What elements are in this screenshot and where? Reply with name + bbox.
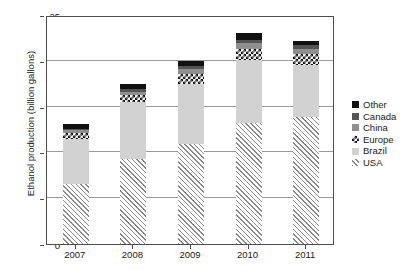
y-axis-tick-mark [40,199,44,200]
legend-item-other[interactable]: Other [352,99,396,111]
bar-segment-brazil [178,84,204,144]
legend-swatch-icon [352,124,359,131]
x-axis-tick-label: 2009 [160,249,220,260]
bar-segment-brazil [120,102,146,159]
bar-segment-usa [178,144,204,244]
legend-item-canada[interactable]: Canada [352,111,396,123]
y-axis-tick-mark [40,62,44,63]
x-axis-tick-label: 2010 [218,249,278,260]
legend-item-label: Brazil [363,146,387,156]
bar-2011[interactable] [293,41,319,244]
x-axis-tick-label: 2008 [102,249,162,260]
bar-segment-brazil [293,65,319,116]
legend-item-label: Other [363,100,387,110]
legend-swatch-icon [352,136,359,143]
chart-figure: Ethanol production (billion gallons) 051… [0,0,411,273]
bar-2008[interactable] [120,84,146,244]
x-axis-tick-mark [305,245,306,249]
bar-segment-usa [120,159,146,244]
x-axis-tick-mark [190,245,191,249]
chart-legend: OtherCanadaChinaEuropeBrazilUSA [352,99,396,169]
legend-item-label: China [363,123,388,133]
bar-segment-brazil [63,139,89,185]
legend-swatch-icon [352,148,359,155]
bar-segment-usa [63,184,89,244]
bar-2010[interactable] [236,33,262,244]
legend-item-europe[interactable]: Europe [352,134,396,146]
y-axis-tick-mark [40,16,44,17]
legend-swatch-icon [352,101,359,108]
legend-item-label: Europe [363,135,394,145]
bar-segment-brazil [236,60,262,123]
y-axis-tick-mark [40,245,44,246]
bar-2009[interactable] [178,61,204,244]
bar-segment-europe [293,54,319,65]
y-axis-tick-mark [40,153,44,154]
bar-segment-europe [178,74,204,84]
x-axis-tick-mark [248,245,249,249]
x-axis-tick-label: 2011 [275,249,335,260]
legend-item-china[interactable]: China [352,122,396,134]
y-axis-tick-mark [40,108,44,109]
legend-swatch-icon [352,159,359,166]
x-axis-tick-mark [132,245,133,249]
legend-item-brazil[interactable]: Brazil [352,145,396,157]
legend-item-label: Canada [363,112,396,122]
x-axis-tick-mark [75,245,76,249]
legend-swatch-icon [352,113,359,120]
bar-segment-usa [236,123,262,244]
bar-segment-usa [293,117,319,244]
legend-item-label: USA [363,158,383,168]
legend-item-usa[interactable]: USA [352,157,396,169]
plot-area [46,16,334,245]
bar-2007[interactable] [63,124,89,244]
bar-segment-europe [236,49,262,60]
bar-segment-europe [120,95,146,102]
x-axis-tick-label: 2007 [45,249,105,260]
